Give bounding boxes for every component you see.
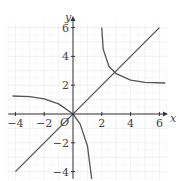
svg-text:y: y (64, 11, 72, 24)
chart: −4−2246642−2−4Oxy (0, 0, 179, 181)
svg-text:2: 2 (62, 79, 69, 92)
svg-text:−2: −2 (36, 117, 52, 130)
svg-text:O: O (60, 116, 69, 129)
svg-text:−2: −2 (53, 137, 69, 150)
curves (13, 28, 166, 179)
svg-text:6: 6 (156, 117, 163, 130)
svg-text:4: 4 (62, 50, 69, 63)
svg-text:−4: −4 (53, 166, 69, 179)
svg-text:2: 2 (98, 117, 105, 130)
svg-text:4: 4 (127, 117, 134, 130)
svg-text:−4: −4 (7, 117, 23, 130)
series-2 (102, 28, 165, 83)
svg-text:x: x (170, 112, 177, 125)
